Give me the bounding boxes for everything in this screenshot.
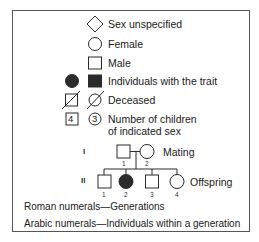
circle-count: 3 — [92, 113, 97, 125]
gen1-ind-2-number: 2 — [145, 160, 149, 167]
legend-label-deceased: Deceased — [108, 94, 155, 106]
male-square-icon — [89, 57, 102, 69]
gen2-ind-3-number: 3 — [150, 191, 154, 198]
diamond-icon — [87, 16, 103, 32]
gen2-ind-2-number: 2 — [124, 191, 128, 198]
affected-square-icon — [89, 75, 102, 87]
gen2-male-3-icon — [146, 175, 159, 188]
gen2-male-1-icon — [98, 175, 111, 188]
gen2-ind-1-number: 1 — [102, 191, 106, 198]
roman-numerals-note: Roman numerals—Generations — [24, 201, 165, 213]
legend-label-sex-unspecified: Sex unspecified — [108, 18, 182, 30]
arabic-numerals-note: Arabic numerals—Individuals within a gen… — [24, 218, 240, 230]
gen1-female-icon — [140, 145, 154, 159]
legend-label-count-line1: Number of children — [108, 113, 197, 125]
gen2-ind-4-number: 4 — [175, 191, 179, 198]
female-circle-icon — [89, 38, 102, 51]
gen2-female-4-icon — [170, 175, 184, 189]
mating-label: Mating — [163, 146, 195, 158]
legend-label-affected: Individuals with the trait — [108, 75, 217, 87]
generation-numeral-1: I — [83, 147, 85, 157]
legend-label-male: Male — [108, 57, 131, 69]
gen1-male-icon — [117, 145, 130, 158]
gen2-female-2-affected-icon — [119, 175, 133, 189]
gen1-ind-1-number: 1 — [122, 160, 126, 167]
legend-label-female: Female — [108, 38, 143, 50]
square-count: 4 — [68, 113, 73, 125]
affected-circle-icon — [66, 75, 79, 88]
generation-numeral-2: II — [81, 176, 85, 186]
legend-label-count-line2: of indicated sex — [108, 125, 181, 137]
offspring-label: Offspring — [190, 176, 232, 188]
